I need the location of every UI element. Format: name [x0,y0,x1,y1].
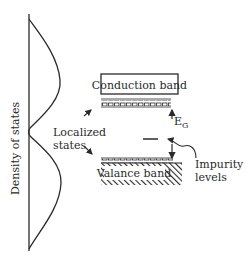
svg-text:states: states [53,139,87,152]
impurity-levels-label: Impurity levels [195,158,244,184]
valance-band-label: Valance band [96,167,172,180]
band-diagram: Density of states Conduction band EG [0,0,246,261]
energy-gap-label: EG [174,115,188,130]
axis-label: Density of states [9,102,22,195]
conduction-band-label: Conduction band [92,79,187,92]
localized-states-annotation: Localized states [53,110,106,154]
conduction-band: Conduction band [92,74,187,94]
svg-text:levels: levels [195,171,227,184]
valence-band: Valance band [96,163,182,185]
localized-states-upper [101,99,171,107]
localized-states-lower [101,158,173,163]
svg-text:Localized: Localized [53,126,106,139]
svg-text:Impurity: Impurity [195,158,244,171]
